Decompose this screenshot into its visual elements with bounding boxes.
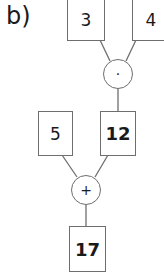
part-label: b) bbox=[6, 2, 31, 30]
input-box-4: 4 bbox=[132, 0, 164, 41]
multiply-operator: · bbox=[103, 59, 133, 89]
product-box-12: 12 bbox=[100, 111, 136, 156]
input-box-3: 3 bbox=[67, 0, 105, 41]
add-operator: + bbox=[71, 175, 101, 205]
input-box-5: 5 bbox=[38, 111, 73, 156]
sum-box-17: 17 bbox=[69, 226, 106, 272]
